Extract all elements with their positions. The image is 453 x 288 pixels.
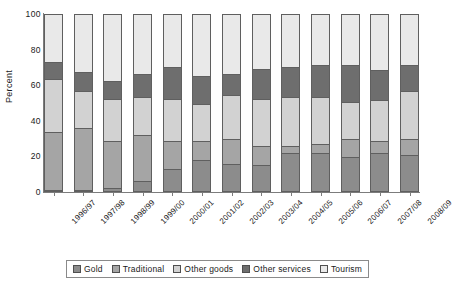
bar-segment	[193, 105, 210, 142]
bar-segment	[223, 165, 240, 191]
bar-segment	[312, 154, 329, 191]
bar-segment	[401, 15, 418, 66]
bar-segment	[401, 156, 418, 191]
y-axis-tick-label: 20	[31, 151, 44, 161]
x-axis-tick-mark	[113, 192, 114, 196]
legend-swatch-icon	[173, 265, 181, 273]
y-axis-tick: 80	[31, 45, 44, 55]
x-axis-tick-label: 2002/03	[247, 198, 275, 226]
legend-swatch-icon	[242, 265, 250, 273]
bar-segment	[104, 15, 121, 82]
bar-segment	[104, 142, 121, 190]
legend-item-label: Traditional	[123, 264, 165, 274]
bar-segment	[104, 82, 121, 100]
legend-swatch-icon	[320, 265, 328, 273]
bar-segment	[401, 92, 418, 140]
x-axis-tick-mark	[380, 192, 381, 196]
bar-segment	[371, 15, 388, 71]
y-axis-tick: 100	[26, 9, 44, 19]
bar-segment	[253, 166, 270, 191]
bar-segment	[371, 142, 388, 154]
bar-segment	[253, 147, 270, 166]
bar-segment	[164, 68, 181, 100]
bar-segment	[223, 96, 240, 140]
bar-segment	[401, 140, 418, 156]
bar	[252, 14, 271, 192]
bar-segment	[134, 98, 151, 137]
y-axis-tick-label: 100	[26, 9, 44, 19]
y-axis-tick-label: 0	[36, 187, 44, 197]
bar-segment	[371, 101, 388, 141]
x-axis-tick-mark	[54, 192, 55, 196]
x-axis-tick-label: 2005/06	[336, 198, 364, 226]
x-axis-tick-label: 2008/09	[425, 198, 453, 226]
bar-segment	[75, 73, 92, 92]
x-axis-tick-label: 2004/05	[307, 198, 335, 226]
bar-segment	[134, 15, 151, 75]
bar-segment	[223, 15, 240, 75]
bar	[341, 14, 360, 192]
bar-segment	[223, 75, 240, 96]
x-axis-tick-label: 2000/01	[188, 198, 216, 226]
bar-segment	[342, 103, 359, 140]
bar-segment	[282, 98, 299, 147]
bar	[281, 14, 300, 192]
bar-segment	[104, 189, 121, 191]
bar-segment	[45, 15, 62, 63]
y-axis-tick: 0	[36, 187, 44, 197]
bar	[192, 14, 211, 192]
legend-item-label: Other services	[253, 264, 311, 274]
x-axis-tick-label: 1999/00	[158, 198, 186, 226]
x-axis-tick-label: 2003/04	[277, 198, 305, 226]
bar-segment	[312, 15, 329, 66]
bar-segment	[312, 145, 329, 154]
bar-segment	[193, 77, 210, 105]
bar-segment	[223, 140, 240, 165]
bar-segment	[134, 136, 151, 182]
bar-segment	[282, 147, 299, 154]
x-axis-tick-mark	[172, 192, 173, 196]
x-axis-tick-label: 2006/07	[366, 198, 394, 226]
bar-segment	[75, 92, 92, 129]
bar-segment	[164, 15, 181, 68]
bar	[311, 14, 330, 192]
bar-segment	[193, 15, 210, 77]
bar	[103, 14, 122, 192]
legend-item-label: Tourism	[331, 264, 362, 274]
x-axis-tick-label: 1997/98	[99, 198, 127, 226]
bar-segment	[342, 66, 359, 103]
legend-item-label: Other goods	[184, 264, 233, 274]
x-axis-tick-label: 1996/97	[69, 198, 97, 226]
legend-item[interactable]: Other services	[242, 264, 311, 274]
x-axis-tick-mark	[232, 192, 233, 196]
bar	[163, 14, 182, 192]
y-axis-tick: 40	[31, 116, 44, 126]
plot-area: 020406080100	[44, 14, 419, 192]
bar-segment	[371, 154, 388, 191]
legend-item[interactable]: Tourism	[320, 264, 362, 274]
x-axis-tick-mark	[410, 192, 411, 196]
bar	[44, 14, 63, 192]
bar-segment	[45, 63, 62, 81]
bar-segment	[134, 182, 151, 191]
legend-item[interactable]: Traditional	[112, 264, 165, 274]
bar	[370, 14, 389, 192]
x-axis-labels: 1996/971997/981998/991999/002000/012001/…	[44, 198, 419, 244]
y-axis-tick-label: 80	[31, 45, 44, 55]
legend-item[interactable]: Other goods	[173, 264, 233, 274]
bar-segment	[45, 133, 62, 191]
legend-item[interactable]: Gold	[73, 264, 103, 274]
bars-container	[44, 14, 419, 192]
bar-segment	[282, 154, 299, 191]
bar-segment	[45, 80, 62, 133]
bar-segment	[342, 140, 359, 158]
y-axis-tick: 20	[31, 151, 44, 161]
x-axis-tick-mark	[321, 192, 322, 196]
bar-segment	[312, 98, 329, 146]
x-axis-tick-mark	[261, 192, 262, 196]
bar-segment	[371, 71, 388, 101]
bar-segment	[342, 15, 359, 66]
y-axis-title: Percent	[4, 70, 14, 103]
bar-segment	[104, 100, 121, 142]
